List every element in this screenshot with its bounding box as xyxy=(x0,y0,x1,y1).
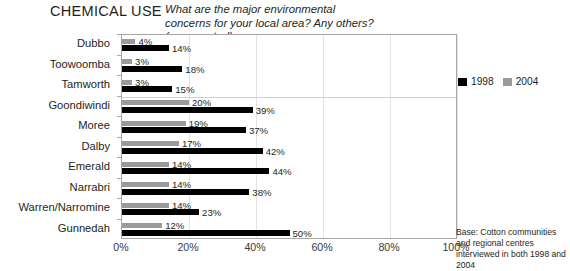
bar-1998-goondiwindi xyxy=(122,107,253,113)
x-axis-tick-label-60%: 60% xyxy=(311,241,332,253)
y-axis-label-dalby: Dalby xyxy=(81,140,110,152)
page-title: CHEMICAL USE xyxy=(50,3,162,19)
bar-1998-emerald xyxy=(122,168,269,174)
bar-2004-dalby xyxy=(122,141,179,146)
bar-2004-warren-narromine xyxy=(122,203,169,208)
bar-2004-narrabri xyxy=(122,182,169,187)
y-axis-category-labels: DubboToowoombaTamworthGoondiwindiMoreeDa… xyxy=(0,34,118,239)
y-axis-label-warren-narromine: Warren/Narromine xyxy=(18,201,110,213)
bar-2004-goondiwindi xyxy=(122,100,189,105)
bar-2004-gunnedah xyxy=(122,223,162,228)
legend-swatch-2004 xyxy=(503,78,512,86)
plot-area: 4%14%3%18%3%15%20%39%19%37%17%42%14%44%1… xyxy=(121,34,457,239)
bar-label-1998-dubbo: 14% xyxy=(172,44,191,54)
bar-label-1998-dalby: 42% xyxy=(266,147,285,157)
bar-1998-narrabri xyxy=(122,189,249,195)
bar-1998-toowoomba xyxy=(122,66,182,72)
bar-1998-moree xyxy=(122,127,246,133)
y-axis-label-goondiwindi: Goondiwindi xyxy=(48,99,110,111)
legend-label-2004: 2004 xyxy=(516,76,539,87)
x-axis-tick-label-100%: 100% xyxy=(442,241,469,253)
x-axis-tick-label-40%: 40% xyxy=(244,241,265,253)
chart-legend: 1998 2004 xyxy=(458,76,538,87)
y-axis-label-emerald: Emerald xyxy=(68,160,110,172)
gridline-60% xyxy=(323,35,324,238)
bar-1998-tamworth xyxy=(122,86,172,92)
bar-2004-tamworth xyxy=(122,80,132,85)
bar-label-1998-narrabri: 38% xyxy=(252,188,271,198)
bar-label-1998-goondiwindi: 39% xyxy=(256,106,275,116)
bar-label-1998-toowoomba: 18% xyxy=(185,65,204,75)
legend-item-1998: 1998 xyxy=(458,76,494,87)
y-axis-label-gunnedah: Gunnedah xyxy=(58,222,110,234)
legend-swatch-1998 xyxy=(458,78,467,86)
x-axis-tick-labels: 0%20%40%60%80%100% xyxy=(0,241,487,257)
gridline-40% xyxy=(256,35,257,238)
bar-2004-toowoomba xyxy=(122,59,132,64)
bar-label-1998-emerald: 44% xyxy=(272,167,291,177)
y-axis-label-toowoomba: Toowoomba xyxy=(50,58,110,70)
y-axis-label-tamworth: Tamworth xyxy=(62,78,111,90)
bar-2004-emerald xyxy=(122,162,169,167)
bar-1998-dalby xyxy=(122,148,263,154)
bar-label-1998-warren-narromine: 23% xyxy=(202,208,221,218)
bar-label-1998-gunnedah: 50% xyxy=(293,229,312,239)
gridline-80% xyxy=(390,35,391,238)
bar-label-1998-moree: 37% xyxy=(249,126,268,136)
group-separator-line xyxy=(122,97,456,98)
gridline-100% xyxy=(457,35,458,238)
bar-2004-dubbo xyxy=(122,39,135,44)
y-axis-label-moree: Moree xyxy=(78,119,110,131)
bar-1998-warren-narromine xyxy=(122,209,199,215)
bar-label-1998-tamworth: 15% xyxy=(175,85,194,95)
y-axis-label-dubbo: Dubbo xyxy=(77,37,110,49)
bar-1998-dubbo xyxy=(122,45,169,51)
legend-item-2004: 2004 xyxy=(503,76,539,87)
bar-1998-gunnedah xyxy=(122,230,290,236)
y-axis-label-narrabri: Narrabri xyxy=(70,181,110,193)
bar-2004-moree xyxy=(122,121,186,126)
x-axis-tick-label-20%: 20% xyxy=(177,241,198,253)
legend-label-1998: 1998 xyxy=(471,76,494,87)
x-axis-tick-label-0%: 0% xyxy=(113,241,128,253)
x-axis-tick-label-80%: 80% xyxy=(378,241,399,253)
